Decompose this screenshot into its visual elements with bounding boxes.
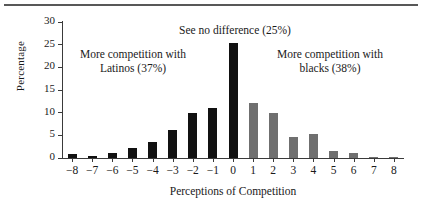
annotation-see-no-difference: See no difference (25%) (130, 24, 340, 38)
figure-container: Percentage 051015202530 −8−7−6−5−4−3−2−1… (0, 0, 422, 215)
x-tick-mark--7 (92, 158, 93, 162)
y-tick-label: 15 (31, 82, 55, 94)
bar-2 (269, 113, 278, 158)
y-tick-mark (58, 22, 62, 23)
x-tick-mark--3 (173, 158, 174, 162)
x-tick-mark--5 (132, 158, 133, 162)
bar--5 (128, 148, 137, 158)
y-tick-mark (58, 44, 62, 45)
y-tick-mark (58, 135, 62, 136)
x-tick-mark-5 (334, 158, 335, 162)
x-tick-mark-4 (313, 158, 314, 162)
bar--3 (168, 130, 177, 158)
x-tick-mark--4 (153, 158, 154, 162)
x-axis-title: Perceptions of Competition (62, 185, 404, 197)
annotation-more-competition-blacks: More competition with blacks (38%) (250, 48, 410, 75)
bar-0 (229, 43, 238, 158)
x-tick-mark-6 (354, 158, 355, 162)
x-tick-mark-2 (273, 158, 274, 162)
bar-series (62, 22, 404, 158)
x-tick-label-8: 8 (382, 164, 406, 176)
bar--2 (188, 113, 197, 158)
y-tick-label: 10 (31, 105, 55, 117)
y-tick-label: 20 (31, 59, 55, 71)
x-tick-mark-8 (394, 158, 395, 162)
y-tick-label: 30 (31, 14, 55, 26)
y-tick-mark (58, 112, 62, 113)
y-tick-label: 25 (31, 37, 55, 49)
bar-1 (249, 103, 258, 158)
bar-5 (329, 151, 338, 158)
annotation-more-competition-latinos: More competition with Latinos (37%) (58, 48, 208, 75)
y-tick-label: 0 (31, 150, 55, 162)
plot-area: 051015202530 (62, 22, 404, 158)
y-tick-mark (58, 90, 62, 91)
x-tick-mark-7 (374, 158, 375, 162)
bar--1 (208, 108, 217, 158)
bar-4 (309, 134, 318, 158)
x-tick-mark-3 (293, 158, 294, 162)
x-tick-mark--8 (72, 158, 73, 162)
bar--4 (148, 142, 157, 158)
x-tick-mark--2 (193, 158, 194, 162)
x-tick-mark--6 (112, 158, 113, 162)
x-tick-mark--1 (213, 158, 214, 162)
x-tick-mark-0 (233, 158, 234, 162)
y-tick-mark (58, 158, 62, 159)
header-rule (4, 4, 418, 6)
x-tick-mark-1 (253, 158, 254, 162)
y-tick-label: 5 (31, 127, 55, 139)
bar-3 (289, 137, 298, 158)
y-axis-title: Percentage (14, 16, 26, 116)
